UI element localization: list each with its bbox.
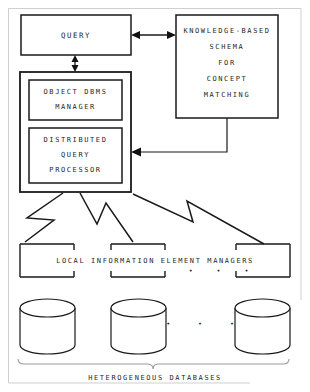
database-cylinder-2	[111, 299, 166, 354]
database-cylinder-1	[20, 299, 75, 354]
zigzag-connector-1	[25, 193, 63, 242]
local-manager-box-3	[236, 244, 290, 277]
local-manager-box-2	[111, 244, 165, 277]
diagram-canvas: QUERY KNOWLEDGE-BASED SCHEMA FOR CONCEPT…	[0, 0, 310, 392]
heterogeneous-databases-brace	[18, 359, 289, 369]
knowledge-based-schema-box-outline	[176, 15, 278, 118]
schema-processor-connector	[131, 118, 227, 157]
architecture-diagram-graphics	[0, 0, 310, 392]
local-manager-box-1	[20, 244, 74, 277]
database-cylinder-3	[235, 299, 290, 354]
query-schema-connector	[131, 31, 176, 39]
zigzag-connector-3	[133, 194, 264, 244]
zigzag-connector-2	[80, 193, 133, 242]
query-dbms-connector	[72, 55, 79, 72]
object-dbms-manager-outline	[29, 80, 122, 120]
query-box-outline	[21, 15, 131, 55]
distributed-query-processor-outline	[29, 128, 122, 183]
